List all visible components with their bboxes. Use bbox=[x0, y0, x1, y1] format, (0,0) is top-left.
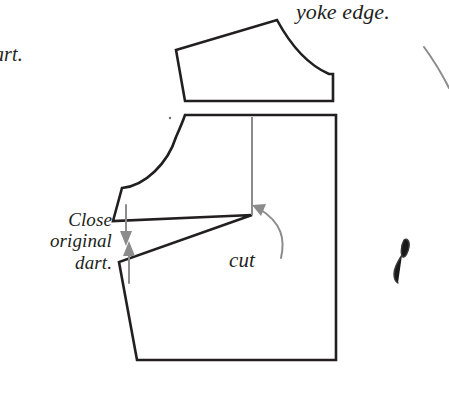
pattern-diagram-canvas: yoke edge. art. Close original dart. cut bbox=[0, 0, 449, 403]
label-yoke-edge: yoke edge. bbox=[296, 0, 390, 23]
bodice-front-piece bbox=[113, 115, 336, 360]
dart-close-down-arrow-head bbox=[120, 231, 132, 246]
label-cut: cut bbox=[229, 249, 255, 271]
dart-close-up-arrow-head bbox=[123, 241, 135, 256]
pattern-figure bbox=[0, 0, 449, 403]
notch-dot-marker bbox=[169, 117, 171, 119]
yoke-edge-leader-line bbox=[424, 47, 449, 88]
ink-speck-artifact bbox=[394, 239, 409, 283]
yoke-piece bbox=[176, 20, 333, 101]
label-clipped-dart-fragment: art. bbox=[0, 44, 23, 65]
label-close-original-dart: Close original dart. bbox=[8, 209, 112, 273]
